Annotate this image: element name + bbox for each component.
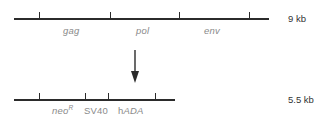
parental-retrovirus-tick-3: [179, 12, 180, 19]
recombinant-vector-tick-1: [39, 93, 40, 100]
parental-retrovirus-backbone: [14, 18, 269, 20]
gene-label-hada-gene: ADA: [123, 105, 143, 116]
gene-label-gag: gag: [63, 26, 79, 36]
gene-label-hada: hADA: [118, 106, 144, 116]
recombinant-vector-tick-4: [155, 93, 156, 100]
down-arrow-icon: [128, 50, 142, 84]
gene-label-neo-r-superscript: R: [68, 104, 73, 111]
size-label-parental-retrovirus: 9 kb: [288, 14, 306, 24]
parental-retrovirus-tick-1: [39, 12, 40, 19]
gene-label-neo-r-base: neo: [52, 105, 68, 116]
gene-label-pol: pol: [136, 26, 149, 36]
recombinant-vector-tick-2: [85, 93, 86, 100]
gene-label-env: env: [204, 26, 220, 36]
down-arrow-svg: [128, 50, 142, 84]
gene-label-neo-r: neoR: [52, 106, 73, 116]
gene-label-sv40: SV40: [84, 106, 108, 116]
retroviral-vector-diagram: gag pol env 9 kb neoR SV40 hADA 5.5 kb: [0, 0, 335, 124]
parental-retrovirus-tick-4: [249, 12, 250, 19]
recombinant-vector-tick-3: [108, 93, 109, 100]
parental-retrovirus-tick-2: [110, 12, 111, 19]
size-label-recombinant-vector: 5.5 kb: [288, 95, 314, 105]
